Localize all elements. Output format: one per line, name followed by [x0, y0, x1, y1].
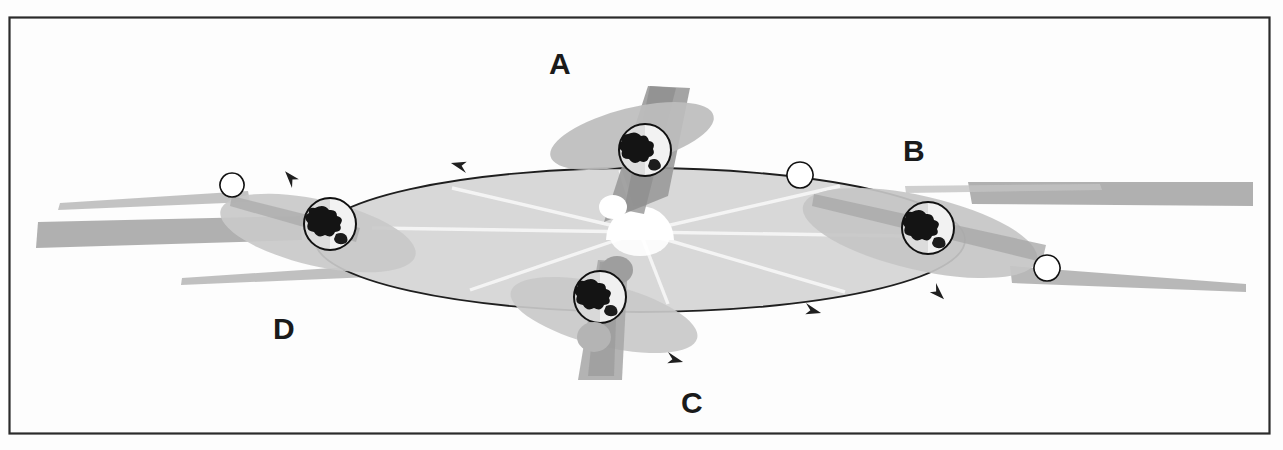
orbit-diagram-canvas	[0, 0, 1283, 450]
pole-cap-B-far	[1034, 255, 1060, 281]
position-label-B: B	[903, 136, 925, 166]
position-label-A: A	[549, 49, 571, 79]
position-label-D: D	[273, 314, 295, 344]
pole-cap-C-bottom	[577, 322, 611, 352]
orbit-diagram-figure: A B C D	[0, 0, 1283, 450]
sun-glow	[610, 216, 670, 256]
position-label-C: C	[681, 388, 703, 418]
pole-cap-B-near-sun	[787, 162, 813, 188]
pole-cap-A	[599, 195, 627, 219]
pole-cap-D	[220, 173, 244, 197]
